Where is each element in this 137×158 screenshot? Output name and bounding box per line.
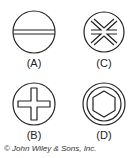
label-d: (D) [84, 129, 124, 141]
label-b: (B) [14, 129, 54, 141]
copyright-notice: © John Wiley & Sons, Inc. [4, 144, 97, 153]
slotted-screw-head-icon [13, 11, 55, 53]
label-c: (C) [84, 57, 124, 69]
pozidriv-screw-head-icon [84, 12, 124, 52]
label-a: (A) [14, 57, 54, 69]
phillips-screw-head-icon [13, 83, 55, 125]
hex-socket-screw-head-icon [83, 83, 125, 125]
